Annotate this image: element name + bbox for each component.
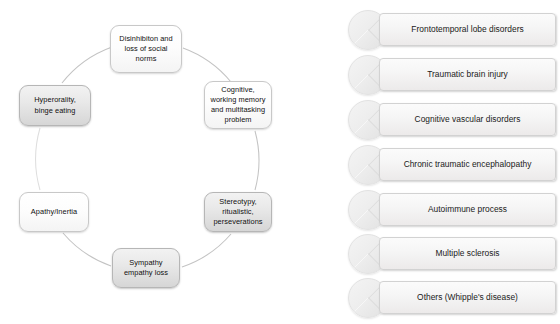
list-item-label: Others (Whipple's disease) <box>386 292 549 303</box>
cycle-diagram: Disinhibiton and loss of social norms Co… <box>0 0 300 324</box>
list-item-pill[interactable]: Others (Whipple's disease) <box>379 281 556 314</box>
cycle-node-disinhibition[interactable]: Disinhibiton and loss of social norms <box>110 25 182 73</box>
arc-cognitive-to-stereotypy <box>255 131 259 190</box>
cycle-node-stereotypy[interactable]: Stereotypy, ritualistic, perseverations <box>204 192 272 232</box>
list-item-pill[interactable]: Cognitive vascular disorders <box>379 103 556 136</box>
list-item-label: Autoimmune process <box>386 204 549 215</box>
cycle-node-label: Sympathy empathy loss <box>117 258 175 278</box>
cycle-node-label: Cognitive, working memory and multitaski… <box>209 85 267 126</box>
cycle-node-hyperorality[interactable]: Hyperorality, binge eating <box>19 85 91 126</box>
arc-disinhibition-to-cognitive <box>183 48 231 82</box>
list-item[interactable]: Multiple sclerosis <box>346 232 560 276</box>
list-item-pill[interactable]: Frontotemporal lobe disorders <box>379 13 556 46</box>
list-item-pill[interactable]: Autoimmune process <box>379 193 556 226</box>
list-item-label: Frontotemporal lobe disorders <box>386 24 549 35</box>
list-item-label: Traumatic brain injury <box>386 69 549 80</box>
cycle-node-label: Hyperorality, binge eating <box>24 95 86 115</box>
arc-apathy-to-hyperorality <box>36 128 40 190</box>
disorder-list: Frontotemporal lobe disorders Traumatic … <box>346 0 560 324</box>
list-item[interactable]: Traumatic brain injury <box>346 53 560 97</box>
list-item[interactable]: Autoimmune process <box>346 188 560 232</box>
list-item-label: Chronic traumatic encephalopathy <box>386 159 549 170</box>
cycle-node-label: Apathy/Inertia <box>24 207 84 217</box>
list-item[interactable]: Frontotemporal lobe disorders <box>346 8 560 52</box>
figure-canvas: Disinhibiton and loss of social norms Co… <box>0 0 560 324</box>
list-item[interactable]: Cognitive vascular disorders <box>346 98 560 142</box>
list-item-label: Multiple sclerosis <box>386 248 549 259</box>
cycle-node-label: Disinhibiton and loss of social norms <box>115 34 177 65</box>
list-item-pill[interactable]: Traumatic brain injury <box>379 58 556 91</box>
cycle-node-cognitive[interactable]: Cognitive, working memory and multitaski… <box>204 81 272 129</box>
list-item[interactable]: Others (Whipple's disease) <box>346 276 560 320</box>
list-item-label: Cognitive vascular disorders <box>386 114 549 125</box>
cycle-node-apathy[interactable]: Apathy/Inertia <box>19 192 89 232</box>
cycle-node-sympathy[interactable]: Sympathy empathy loss <box>112 248 180 288</box>
arc-sympathy-to-apathy <box>63 233 111 266</box>
list-item-pill[interactable]: Multiple sclerosis <box>379 237 556 270</box>
arc-hyperorality-to-disinhibition <box>62 47 112 83</box>
list-item[interactable]: Chronic traumatic encephalopathy <box>346 143 560 187</box>
cycle-node-label: Stereotypy, ritualistic, perseverations <box>209 197 267 228</box>
arc-stereotypy-to-sympathy <box>182 234 231 267</box>
list-item-pill[interactable]: Chronic traumatic encephalopathy <box>379 148 556 181</box>
